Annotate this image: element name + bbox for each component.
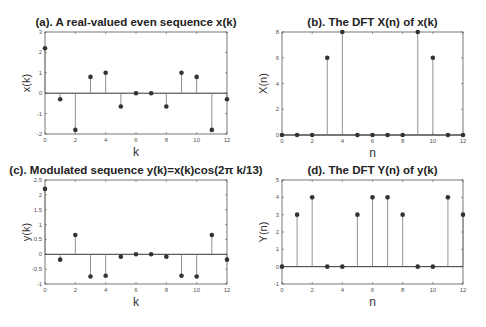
y-tick-label: 0 — [39, 90, 43, 96]
y-tick-label: 2.5 — [34, 177, 43, 183]
x-axis-label: k — [133, 295, 140, 309]
stem-marker — [370, 195, 375, 200]
stem-marker — [295, 133, 300, 138]
y-tick-label: -1 — [274, 281, 280, 287]
stem-marker — [446, 133, 451, 138]
subplot-d: 024681012-1012345(d). The DFT Y(n) of y(… — [257, 164, 467, 309]
x-tick-label: 6 — [371, 287, 375, 293]
y-axis-label: Y(n) — [257, 222, 269, 243]
x-axis-label: n — [369, 295, 376, 309]
x-tick-label: 12 — [460, 138, 467, 144]
y-tick-label: 4 — [276, 81, 280, 87]
stem-marker — [119, 254, 124, 259]
y-tick-label: 0.5 — [34, 236, 43, 242]
stem-marker — [210, 233, 215, 238]
subplot-b: 02468101202468(b). The DFT X(n) of x(k)n… — [257, 16, 467, 160]
x-tick-label: 8 — [401, 138, 405, 144]
x-tick-label: 12 — [460, 287, 467, 293]
stem-marker — [210, 128, 215, 133]
x-tick-label: 0 — [43, 287, 47, 293]
stem-marker — [149, 91, 154, 96]
stem-marker — [325, 55, 330, 60]
stem-marker — [400, 133, 405, 138]
y-tick-label: 2 — [276, 229, 280, 235]
stem-marker — [446, 195, 451, 200]
x-tick-label: 0 — [43, 137, 47, 143]
stem-marker — [194, 274, 199, 279]
stem-marker — [43, 46, 48, 51]
stem-marker — [461, 133, 466, 138]
stem-marker — [103, 71, 108, 76]
stem-marker — [370, 133, 375, 138]
stem-marker — [355, 133, 360, 138]
subplot-title: (d). The DFT Y(n) of y(k) — [307, 164, 437, 176]
x-tick-label: 2 — [74, 287, 78, 293]
x-tick-label: 4 — [104, 287, 108, 293]
x-tick-label: 6 — [371, 138, 375, 144]
x-tick-label: 8 — [165, 137, 169, 143]
stem-marker — [149, 252, 154, 257]
stem-marker — [88, 75, 93, 80]
stem-marker — [340, 264, 345, 269]
axes-box — [45, 180, 227, 284]
y-tick-label: 6 — [276, 55, 280, 61]
subplot-c: 024681012-1-0.500.511.522.5(c). Modulate… — [9, 164, 262, 309]
stem-marker — [179, 71, 184, 76]
stem-marker — [461, 212, 466, 217]
y-axis-label: y(k) — [20, 223, 32, 241]
x-tick-label: 10 — [429, 138, 436, 144]
y-tick-label: 3 — [276, 212, 280, 218]
x-tick-label: 10 — [429, 287, 436, 293]
y-axis-label: x(k) — [20, 74, 32, 92]
stem-marker — [431, 55, 436, 60]
stem-marker — [400, 212, 405, 217]
x-tick-label: 2 — [310, 287, 314, 293]
stem-marker — [194, 75, 199, 80]
subplot-title: (a). A real-valued even sequence x(k) — [35, 16, 236, 28]
stem-marker — [415, 30, 420, 35]
figure: 024681012-2-10123(a). A real-valued even… — [0, 0, 486, 327]
stem-marker — [310, 195, 315, 200]
stem-marker — [164, 104, 169, 109]
y-axis-label: X(n) — [257, 73, 269, 94]
stem-marker — [431, 264, 436, 269]
stem-marker — [310, 133, 315, 138]
stem-marker — [280, 264, 285, 269]
x-tick-label: 6 — [134, 137, 138, 143]
x-axis-label: k — [133, 145, 140, 159]
x-tick-label: 4 — [341, 138, 345, 144]
x-tick-label: 4 — [104, 137, 108, 143]
y-tick-label: 3 — [39, 29, 43, 35]
stem-marker — [325, 264, 330, 269]
y-tick-label: 2 — [39, 49, 43, 55]
stem-marker — [58, 97, 63, 102]
stem-marker — [415, 264, 420, 269]
stem-marker — [119, 104, 124, 109]
stem-marker — [340, 30, 345, 35]
stem-marker — [43, 187, 48, 192]
y-tick-label: -1 — [37, 281, 43, 287]
stem-marker — [73, 128, 78, 133]
y-tick-label: -2 — [37, 131, 43, 137]
stem-marker — [134, 91, 139, 96]
y-tick-label: 0 — [39, 251, 43, 257]
stem-marker — [134, 252, 139, 257]
x-tick-label: 6 — [134, 287, 138, 293]
stem-marker — [295, 212, 300, 217]
stem-marker — [385, 133, 390, 138]
y-tick-label: 0 — [276, 132, 280, 138]
x-tick-label: 0 — [280, 138, 284, 144]
stem-marker — [58, 257, 63, 262]
stem-marker — [179, 273, 184, 278]
stem-marker — [103, 273, 108, 278]
y-tick-label: 5 — [276, 177, 280, 183]
y-tick-label: -1 — [37, 111, 43, 117]
y-tick-label: 1.5 — [34, 207, 43, 213]
x-tick-label: 0 — [280, 287, 284, 293]
x-tick-label: 4 — [341, 287, 345, 293]
stem-marker — [355, 212, 360, 217]
stem-marker — [88, 274, 93, 279]
subplot-title: (c). Modulated sequence y(k)=x(k)cos(2π … — [9, 164, 262, 176]
x-tick-label: 2 — [310, 138, 314, 144]
stem-marker — [73, 233, 78, 238]
